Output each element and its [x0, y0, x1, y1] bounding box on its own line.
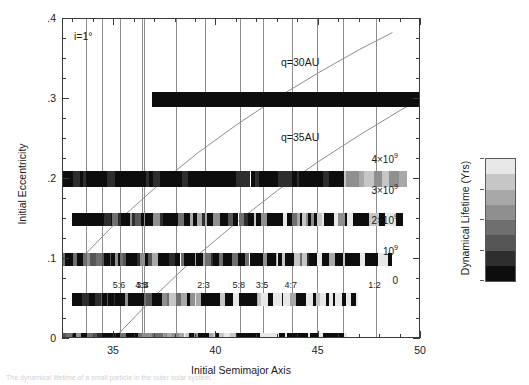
- x-tick: [338, 334, 339, 338]
- y-tick: [413, 18, 420, 19]
- y-tick: [62, 278, 66, 279]
- lifetime-cell: [399, 171, 407, 187]
- y-tick: [413, 98, 420, 99]
- x-tick: [93, 334, 94, 338]
- lifetime-cell: [295, 92, 307, 107]
- lifetime-cell: [342, 92, 351, 107]
- y-tick: [416, 138, 420, 139]
- x-tick: [400, 18, 401, 22]
- y-tick: [62, 318, 66, 319]
- colorbar-tick: [480, 280, 484, 281]
- x-tick: [318, 331, 319, 338]
- y-tick: [62, 238, 66, 239]
- colorbar-tick: [480, 189, 484, 190]
- colorbar-tick: [480, 158, 484, 159]
- x-tick: [154, 334, 155, 338]
- y-tick: [416, 38, 420, 39]
- lifetime-cell: [90, 253, 97, 266]
- lifetime-cell: [135, 213, 142, 226]
- y-axis-title: Initial Eccentricity: [16, 104, 28, 264]
- y-tick: [62, 338, 69, 339]
- lifetime-cell: [346, 333, 347, 338]
- y-tick: [416, 58, 420, 59]
- resonance-label-3-4: 3:4: [136, 280, 149, 290]
- colorbar-tick: [480, 250, 484, 251]
- y-tick-label: .4: [32, 12, 56, 24]
- colorbar-tick-label: 0: [392, 275, 398, 286]
- y-tick: [413, 338, 420, 339]
- lifetime-cell: [153, 171, 160, 187]
- x-tick: [72, 334, 73, 338]
- x-tick: [175, 334, 176, 338]
- y-tick: [416, 158, 420, 159]
- lifetime-cell: [312, 92, 323, 107]
- colorbar-tick-label: 3×109: [371, 182, 398, 195]
- q35-curve-label: q=35AU: [281, 131, 319, 143]
- lifetime-cell: [269, 171, 276, 187]
- lifetime-cell: [138, 293, 145, 306]
- y-tick: [416, 298, 420, 299]
- resonance-label-5-6: 5:6: [113, 280, 126, 290]
- x-tick-label: 45: [312, 344, 324, 356]
- colorbar-tick-label: 109: [383, 243, 398, 256]
- lifetime-cell: [323, 92, 334, 107]
- y-tick: [416, 278, 420, 279]
- y-tick-label: .3: [32, 92, 56, 104]
- lifetime-band: [63, 253, 419, 266]
- y-tick: [413, 258, 420, 259]
- y-tick: [62, 58, 66, 59]
- lifetime-band: [63, 171, 419, 187]
- lifetime-cell: [121, 213, 128, 226]
- y-tick: [62, 218, 66, 219]
- colorbar-step: [486, 266, 515, 281]
- y-tick: [416, 318, 420, 319]
- colorbar-step: [486, 190, 515, 205]
- x-tick: [400, 334, 401, 338]
- lifetime-cell: [363, 92, 374, 107]
- colorbar-tick-label: 2×109: [371, 212, 398, 225]
- x-tick: [134, 334, 135, 338]
- x-tick: [359, 18, 360, 22]
- lifetime-cell: [242, 171, 249, 187]
- colorbar-step: [486, 159, 515, 174]
- lifetime-cell: [181, 92, 192, 107]
- colorbar-step: [486, 251, 515, 266]
- lifetime-band: [63, 92, 419, 107]
- lifetime-cell: [356, 92, 364, 107]
- resonance-label-4-7: 4:7: [284, 280, 297, 290]
- lifetime-cell: [164, 92, 175, 107]
- lifetime-cell: [153, 213, 159, 226]
- lifetime-cell: [132, 171, 140, 187]
- x-tick-label: 50: [414, 344, 426, 356]
- lifetime-cell: [259, 171, 269, 187]
- figure-caption: The dynamical lifetime of a small partic…: [6, 374, 306, 382]
- y-tick: [62, 298, 66, 299]
- x-tick: [72, 18, 73, 22]
- lifetime-cell: [73, 171, 80, 187]
- x-tick: [236, 334, 237, 338]
- lifetime-band: [63, 293, 419, 306]
- lifetime-cell: [377, 92, 384, 107]
- x-tick: [297, 18, 298, 22]
- x-tick: [113, 18, 114, 25]
- colorbar-step: [486, 235, 515, 250]
- y-tick: [62, 198, 66, 199]
- y-tick: [62, 78, 66, 79]
- y-tick: [62, 178, 69, 179]
- x-tick: [379, 18, 380, 22]
- lifetime-cell: [276, 213, 283, 226]
- lifetime-cell: [272, 92, 285, 107]
- y-tick: [62, 158, 66, 159]
- y-tick: [416, 198, 420, 199]
- colorbar-title: Dynamical Lifetime (Yrs): [459, 133, 471, 303]
- resonance-label-3-5: 3:5: [256, 280, 269, 290]
- colorbar-swatch: [485, 158, 516, 282]
- x-tick: [359, 334, 360, 338]
- x-tick-label: 35: [107, 344, 119, 356]
- x-tick: [195, 18, 196, 22]
- x-tick: [154, 18, 155, 22]
- lifetime-cell: [201, 293, 208, 306]
- y-tick: [62, 18, 69, 19]
- lifetime-cell: [304, 171, 311, 187]
- x-tick: [134, 18, 135, 22]
